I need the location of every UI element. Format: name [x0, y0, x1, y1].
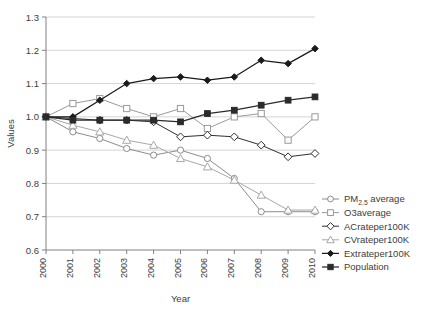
- x-axis-tick-label: 2000: [38, 258, 48, 278]
- y-axis-tick-label: 0.6: [26, 245, 39, 256]
- x-axis-tick-label: 2010: [307, 258, 317, 278]
- x-axis-title: Year: [171, 293, 190, 304]
- chart-container: 0.60.70.80.91.01.11.21.32000200120022003…: [0, 0, 429, 313]
- x-axis-tick-label: 2003: [119, 258, 129, 278]
- legend-label: Population: [344, 261, 389, 272]
- legend-label: O3average: [344, 207, 391, 218]
- legend-item-cvrateper100k[interactable]: CVrateper100K: [322, 234, 410, 245]
- legend-item-acrateper100k[interactable]: ACrateper100K: [322, 221, 410, 232]
- y-axis-tick-label: 0.8: [26, 178, 39, 189]
- legend-item-extrateper100k[interactable]: Extrateper100K: [322, 248, 411, 259]
- legend-label: ACrateper100K: [344, 221, 410, 232]
- x-axis-tick-label: 2008: [253, 258, 263, 278]
- x-axis-tick-label: 2004: [146, 258, 156, 278]
- legend-label: PM2.5 average: [344, 193, 405, 205]
- line-chart: 0.60.70.80.91.01.11.21.32000200120022003…: [0, 0, 429, 313]
- y-axis-tick-label: 1.0: [26, 111, 39, 122]
- legend-label: Extrateper100K: [344, 248, 411, 259]
- y-axis-tick-label: 1.1: [26, 78, 39, 89]
- legend-item-o3average[interactable]: O3average: [322, 207, 391, 218]
- legend-label: CVrateper100K: [344, 234, 410, 245]
- x-axis-tick-label: 2005: [173, 258, 183, 278]
- series-line: [46, 117, 315, 210]
- series-cvrateper100k: [42, 113, 319, 213]
- y-axis-tick-label: 0.7: [26, 211, 39, 222]
- x-axis-tick-label: 2006: [199, 258, 209, 278]
- y-axis-tick-label: 0.9: [26, 145, 39, 156]
- x-axis-tick-label: 2001: [65, 258, 75, 278]
- y-axis-tick-label: 1.3: [26, 12, 39, 23]
- x-axis-tick-label: 2007: [226, 258, 236, 278]
- y-axis-tick-label: 1.2: [26, 45, 39, 56]
- y-axis-title: Values: [5, 119, 16, 148]
- x-axis-tick-label: 2009: [280, 258, 290, 278]
- series-line: [46, 117, 315, 212]
- legend-item-pm2-5-average[interactable]: PM2.5 average: [322, 193, 405, 205]
- legend-item-population[interactable]: Population: [322, 261, 389, 272]
- x-axis-tick-label: 2002: [92, 258, 102, 278]
